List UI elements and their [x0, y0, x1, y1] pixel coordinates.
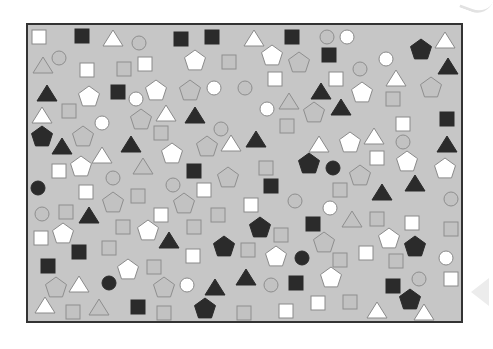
gray-square-shape [117, 62, 131, 76]
white-square-shape [197, 183, 211, 197]
white-square-shape [279, 304, 293, 318]
gray-circle-shape [320, 30, 334, 44]
white-square-shape [396, 117, 410, 131]
white-square-shape [154, 208, 168, 222]
black-square-shape [187, 164, 201, 178]
gray-square-shape [131, 189, 145, 203]
white-circle-shape [379, 52, 393, 66]
white-square-shape [329, 72, 343, 86]
white-square-shape [405, 216, 419, 230]
black-circle-shape [31, 181, 45, 195]
gray-square-shape [116, 220, 130, 234]
gray-square-shape [237, 306, 251, 320]
black-square-shape [111, 85, 125, 99]
black-circle-shape [326, 161, 340, 175]
white-square-shape [370, 151, 384, 165]
black-square-shape [41, 259, 55, 273]
gray-square-shape [280, 119, 294, 133]
white-square-shape [34, 231, 48, 245]
gray-circle-shape [412, 272, 426, 286]
gray-square-shape [222, 55, 236, 69]
gray-circle-shape [106, 171, 120, 185]
white-circle-shape [340, 30, 354, 44]
gray-square-shape [154, 126, 168, 140]
black-square-shape [174, 32, 188, 46]
black-square-shape [131, 300, 145, 314]
black-square-shape [289, 276, 303, 290]
black-square-shape [285, 30, 299, 44]
black-square-shape [75, 29, 89, 43]
gray-circle-shape [444, 192, 458, 206]
white-circle-shape [207, 81, 221, 95]
white-circle-shape [180, 278, 194, 292]
gray-square-shape [259, 161, 273, 175]
white-square-shape [32, 30, 46, 44]
white-square-shape [444, 272, 458, 286]
white-square-shape [244, 198, 258, 212]
gray-circle-shape [238, 81, 252, 95]
black-square-shape [264, 179, 278, 193]
black-square-shape [306, 217, 320, 231]
gray-circle-shape [166, 178, 180, 192]
gray-square-shape [370, 212, 384, 226]
white-square-shape [79, 185, 93, 199]
black-square-shape [386, 279, 400, 293]
white-circle-shape [95, 116, 109, 130]
gray-square-shape [157, 306, 171, 320]
gray-square-shape [274, 228, 288, 242]
white-square-shape [359, 246, 373, 260]
gray-square-shape [444, 222, 458, 236]
gray-circle-shape [264, 278, 278, 292]
gray-square-shape [333, 253, 347, 267]
white-circle-shape [129, 92, 143, 106]
gray-square-shape [211, 208, 225, 222]
black-square-shape [205, 30, 219, 44]
white-square-shape [138, 57, 152, 71]
gray-circle-shape [396, 135, 410, 149]
white-square-shape [80, 63, 94, 77]
black-square-shape [72, 245, 86, 259]
gray-square-shape [187, 220, 201, 234]
gray-square-shape [62, 104, 76, 118]
gray-square-shape [241, 243, 255, 257]
black-square-shape [322, 48, 336, 62]
white-circle-shape [260, 102, 274, 116]
white-circle-shape [439, 251, 453, 265]
gray-square-shape [333, 183, 347, 197]
white-square-shape [268, 72, 282, 86]
white-square-shape [52, 164, 66, 178]
black-square-shape [440, 112, 454, 126]
gray-square-shape [147, 260, 161, 274]
gray-square-shape [386, 92, 400, 106]
gray-square-shape [102, 241, 116, 255]
gray-square-shape [59, 205, 73, 219]
black-circle-shape [102, 276, 116, 290]
gray-circle-shape [52, 51, 66, 65]
gray-circle-shape [214, 122, 228, 136]
gray-square-shape [389, 254, 403, 268]
white-square-shape [186, 249, 200, 263]
gray-square-shape [66, 305, 80, 319]
gray-circle-shape [288, 194, 302, 208]
gray-circle-shape [35, 207, 49, 221]
gray-circle-shape [132, 36, 146, 50]
white-circle-shape [323, 201, 337, 215]
gray-square-shape [343, 295, 357, 309]
gray-circle-shape [353, 62, 367, 76]
white-square-shape [311, 296, 325, 310]
black-circle-shape [295, 251, 309, 265]
